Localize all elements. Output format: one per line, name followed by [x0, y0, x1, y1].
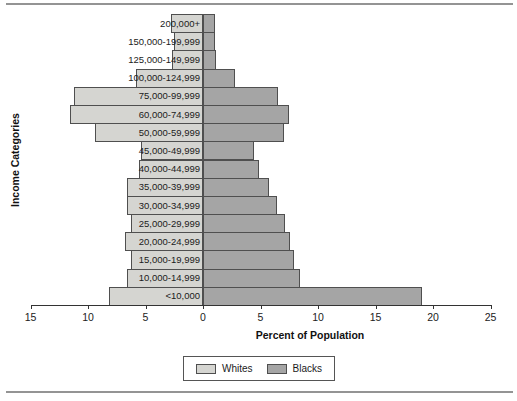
- legend-item-blacks: Blacks: [267, 363, 322, 374]
- x-axis-tick-label: 20: [427, 311, 439, 323]
- bar-blacks: [203, 250, 294, 269]
- bar-blacks: [203, 32, 215, 51]
- category-label: 40,000-44,999: [0, 164, 200, 174]
- category-label: 30,000-34,999: [0, 201, 200, 211]
- bar-blacks: [203, 287, 422, 306]
- bar-blacks: [203, 69, 235, 88]
- bar-blacks: [203, 196, 277, 215]
- x-axis-tick-label: 10: [312, 311, 324, 323]
- category-label: 25,000-29,999: [0, 219, 200, 229]
- category-label: 100,000-124,999: [0, 73, 200, 83]
- x-axis-tick-label: 25: [485, 311, 497, 323]
- category-label: 10,000-14,999: [0, 273, 200, 283]
- bar-blacks: [203, 160, 259, 179]
- bar-blacks: [203, 178, 269, 197]
- category-label: <10,000: [0, 291, 200, 301]
- category-label: 20,000-24,999: [0, 237, 200, 247]
- x-axis-tick: [31, 305, 32, 309]
- y-axis-title: Income Categories: [9, 105, 21, 215]
- bar-blacks: [203, 269, 300, 288]
- bar-blacks: [203, 14, 215, 33]
- x-axis-tick: [88, 305, 89, 309]
- x-axis-tick: [203, 305, 204, 309]
- x-axis-tick-label: 5: [258, 311, 264, 323]
- category-label: 150,000-199,999: [0, 37, 200, 47]
- x-axis-tick: [491, 305, 492, 309]
- category-label: 60,000-74,999: [0, 110, 200, 120]
- bar-blacks: [203, 141, 254, 160]
- legend-item-whites: Whites: [196, 363, 253, 374]
- category-label: 15,000-19,999: [0, 255, 200, 265]
- bar-blacks: [203, 123, 284, 142]
- bar-blacks: [203, 87, 278, 106]
- bar-blacks: [203, 105, 289, 124]
- category-label: 75,000-99,999: [0, 91, 200, 101]
- bar-blacks: [203, 214, 285, 233]
- x-axis-tick: [433, 305, 434, 309]
- x-axis-tick-label: 15: [25, 311, 37, 323]
- x-axis-tick-label: 15: [370, 311, 382, 323]
- category-label: 45,000-49,999: [0, 146, 200, 156]
- whites-swatch-icon: [196, 364, 216, 374]
- category-label: 125,000-149,999: [0, 55, 200, 65]
- x-axis-tick: [318, 305, 319, 309]
- bar-blacks: [203, 232, 290, 251]
- category-label: 50,000-59,999: [0, 128, 200, 138]
- legend: Whites Blacks: [183, 356, 335, 381]
- x-axis-tick: [146, 305, 147, 309]
- x-axis-tick-label: 5: [143, 311, 149, 323]
- blacks-swatch-icon: [267, 364, 287, 374]
- legend-label-blacks: Blacks: [293, 363, 322, 374]
- bar-blacks: [203, 50, 216, 69]
- category-label: 35,000-39,999: [0, 182, 200, 192]
- x-axis-tick: [376, 305, 377, 309]
- legend-label-whites: Whites: [222, 363, 253, 374]
- category-label: 200,000+: [0, 19, 200, 29]
- x-axis-tick-label: 0: [200, 311, 206, 323]
- x-axis-title: Percent of Population: [256, 329, 365, 341]
- x-axis-tick: [261, 305, 262, 309]
- x-axis-tick-label: 10: [82, 311, 94, 323]
- income-pyramid-figure: 200,000+150,000-199,999125,000-149,99910…: [0, 0, 517, 401]
